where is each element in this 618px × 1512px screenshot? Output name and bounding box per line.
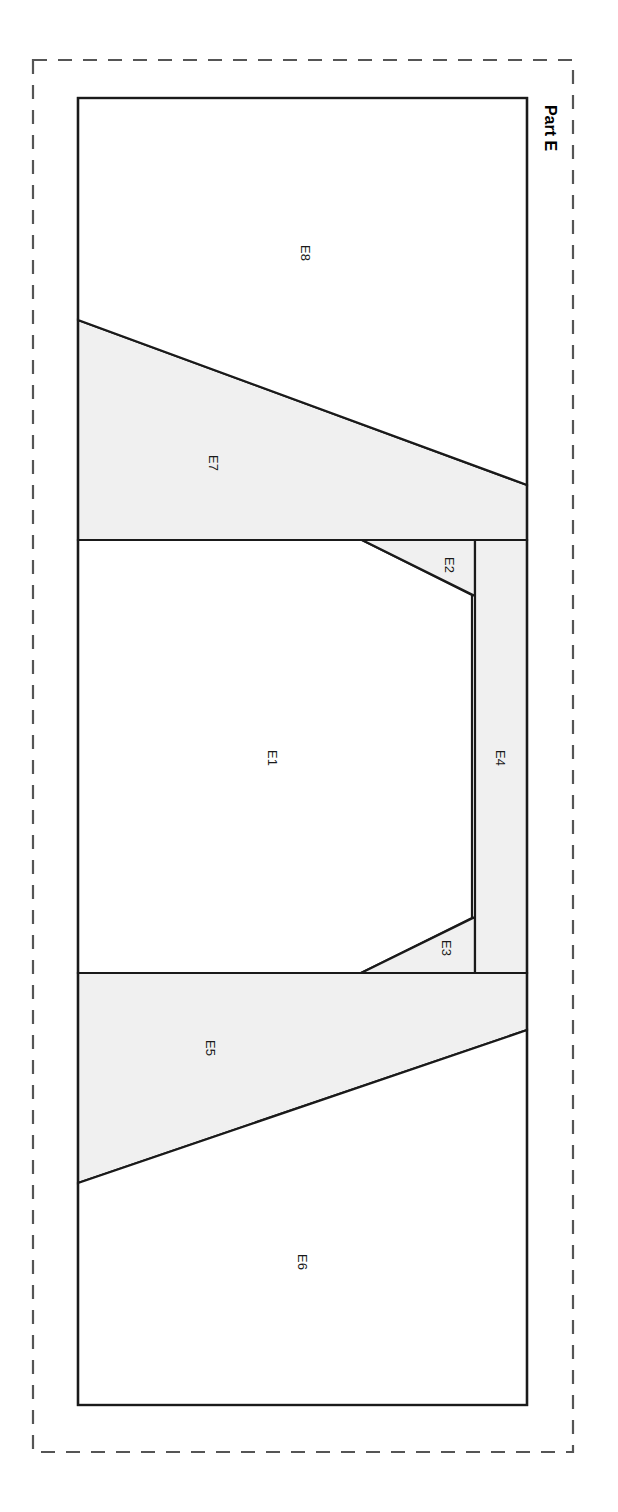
region-label-e3: E3 [439, 940, 454, 956]
regions-group [78, 98, 527, 1405]
region-label-e1: E1 [265, 750, 280, 766]
part-title: Part E [542, 105, 559, 152]
diagram-page: E1E2E3E4E5E6E7E8 Part E [0, 0, 618, 1512]
region-label-e6: E6 [295, 1254, 310, 1270]
region-label-e2: E2 [442, 557, 457, 573]
part-title-group: Part E [542, 105, 559, 152]
region-label-e4: E4 [493, 750, 508, 766]
region-label-e8: E8 [298, 245, 313, 261]
region-label-e5: E5 [203, 1040, 218, 1056]
part-e-diagram: E1E2E3E4E5E6E7E8 Part E [0, 0, 618, 1512]
region-label-e7: E7 [206, 455, 221, 471]
